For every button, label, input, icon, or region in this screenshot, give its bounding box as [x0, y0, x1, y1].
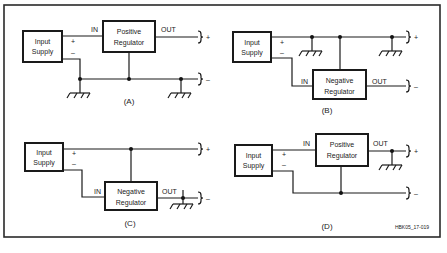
regulator-grounding-diagram: Input Supply + – Positive Regulator IN O… [0, 0, 447, 253]
out-label: OUT [161, 26, 177, 33]
input-supply-label-2: Supply [243, 162, 265, 170]
ground-icon [379, 151, 402, 170]
input-supply-label-2: Supply [241, 49, 263, 57]
out-minus: – [206, 76, 210, 83]
panel-label: (C) [124, 219, 135, 228]
input-supply-box [235, 145, 272, 176]
out-minus: – [206, 195, 210, 202]
in-label: IN [301, 78, 308, 85]
ground-icon [379, 37, 402, 56]
input-supply-box [25, 143, 63, 171]
supply-minus: – [280, 49, 284, 56]
out-plus: + [414, 148, 418, 155]
panel-label: (D) [321, 222, 332, 231]
ground-icon [168, 79, 191, 98]
out-label: OUT [372, 78, 388, 85]
panel-a: Input Supply + – Positive Regulator IN O… [23, 21, 210, 106]
supply-plus: + [72, 150, 76, 157]
input-supply-label-2: Supply [33, 159, 55, 167]
in-label: IN [94, 188, 101, 195]
supply-minus: – [71, 49, 75, 56]
supply-plus: + [282, 151, 286, 158]
positive-regulator-box [316, 134, 368, 166]
out-plus: + [206, 34, 210, 41]
input-supply-label-1: Input [246, 152, 262, 160]
regulator-label-2: Regulator [116, 199, 147, 207]
regulator-label-2: Regulator [324, 88, 355, 96]
input-supply-box [233, 32, 271, 62]
regulator-label-1: Positive [117, 28, 142, 35]
out-minus: – [414, 190, 418, 197]
regulator-label-2: Regulator [327, 152, 358, 160]
figure-border [4, 5, 440, 237]
positive-regulator-box [103, 21, 155, 52]
input-supply-label-1: Input [36, 149, 52, 157]
out-plus: + [206, 146, 210, 153]
in-label: IN [91, 26, 98, 33]
out-label: OUT [373, 140, 389, 147]
input-supply-label-1: Input [244, 39, 260, 47]
out-plus: + [414, 34, 418, 41]
regulator-label-2: Regulator [114, 39, 145, 47]
supply-minus: – [72, 160, 76, 167]
supply-minus: – [282, 161, 286, 168]
regulator-label-1: Positive [330, 141, 355, 148]
regulator-label-1: Negative [117, 188, 145, 196]
panel-b: Input Supply + – + Negative Regulator IN… [233, 31, 418, 115]
supply-plus: + [71, 38, 75, 45]
panel-c: Input Supply + – + Negative Regulator IN… [25, 143, 210, 228]
panel-label: (A) [124, 97, 135, 106]
input-supply-label-1: Input [35, 38, 51, 46]
figure-id: HBK05_17-019 [395, 224, 429, 230]
out-minus: – [414, 83, 418, 90]
panel-d: Input Supply + – Positive Regulator IN O… [235, 134, 418, 231]
input-supply-label-2: Supply [32, 48, 54, 56]
supply-plus: + [280, 39, 284, 46]
regulator-label-1: Negative [326, 77, 354, 85]
panel-label: (B) [322, 106, 333, 115]
in-label: IN [303, 140, 310, 147]
ground-icon [299, 37, 322, 56]
out-label: OUT [162, 188, 178, 195]
ground-icon [67, 79, 90, 98]
input-supply-box [23, 31, 62, 62]
